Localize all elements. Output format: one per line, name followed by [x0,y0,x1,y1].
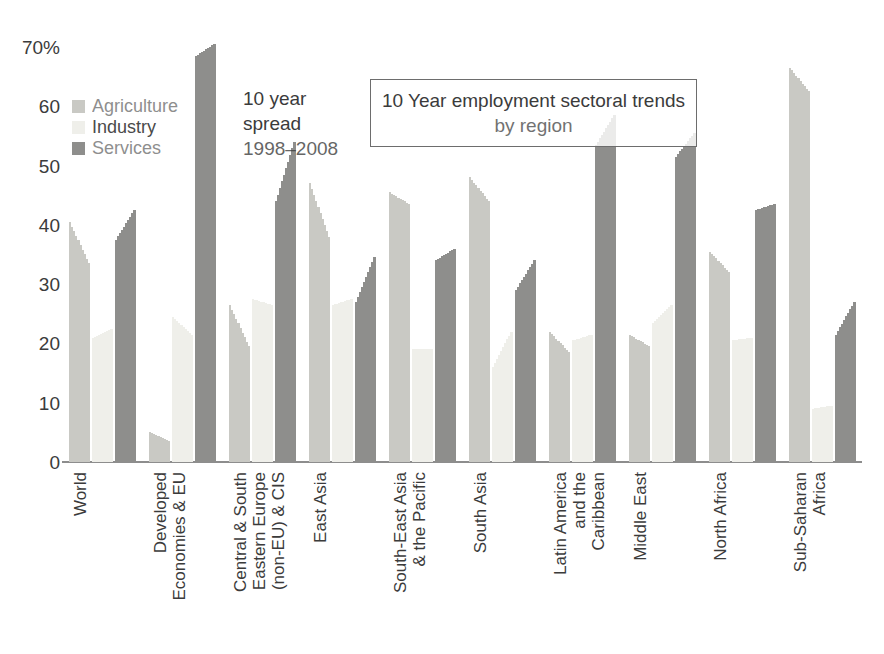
bar-foot [835,437,856,462]
legend-item-industry: Industry [72,117,178,138]
bar-services [755,204,776,462]
spread-annotation-line2: spread [243,111,338,136]
chart-title-box: 10 Year employment sectoral trends by re… [370,79,697,147]
bar-group [149,30,216,462]
bar-segment [773,204,776,462]
bar-segment [133,210,136,462]
x-axis-tick-label: Sub-Saharan [791,472,810,572]
bar-foot [92,437,113,462]
legend-swatch-industry [72,121,85,134]
bar-agriculture [229,305,250,462]
bar-foot [115,437,136,462]
legend-label-agriculture: Agriculture [92,96,178,117]
y-axis-tick-label: 20 [14,334,60,353]
bar-segment [213,44,216,462]
bar-industry [732,338,753,463]
spread-annotation-line1: 10 year [243,86,338,111]
bar-segment [327,237,330,462]
bar-services [355,257,376,462]
bar-foot [435,437,456,462]
bar-segment [613,115,616,462]
bar-industry [92,329,113,462]
bar-foot [789,437,810,462]
legend-label-services: Services [92,138,161,159]
bar-foot [229,437,250,462]
bar-segment [293,142,296,462]
bar-foot [355,437,376,462]
bar-segment [87,263,90,462]
bar-foot [675,437,696,462]
x-axis-tick-label: North Africa [711,472,730,561]
bar-foot [595,437,616,462]
x-axis-tick-label: South-East Asia [391,472,410,593]
legend-swatch-services [72,142,85,155]
x-axis-tick-label: Economies & EU [170,472,189,601]
bar-industry [412,349,433,462]
bar-services [275,142,296,462]
bar-services [595,115,616,462]
chart-canvas: 70%6050403020100 WorldDevelopedEconomies… [0,0,884,654]
x-axis-tick-label: Eastern Europe [250,472,269,590]
spread-annotation: 10 year spread 1998–2008 [243,86,338,161]
x-axis-tick-label: & the Pacific [410,472,429,567]
bar-agriculture [789,68,810,462]
bar-segment [487,201,490,462]
bar-industry [812,406,833,462]
x-axis-tick-label: Latin America [551,472,570,575]
bar-industry [172,317,193,462]
bar-agriculture [469,177,490,462]
bar-foot [412,437,433,462]
bar-foot [309,437,330,462]
bar-foot [332,437,353,462]
bar-foot [275,437,296,462]
bar-foot [252,437,273,462]
bar-foot [652,437,673,462]
bar-industry [652,305,673,462]
x-axis-tick-label: Central & South [231,472,250,592]
x-axis-tick-label: World [71,472,90,516]
x-axis-tick-label: (non-EU) & CIS [269,472,288,590]
bar-services [195,44,216,462]
bar-agriculture [629,335,650,462]
bar-foot [755,437,776,462]
chart-title-line2: by region [494,115,572,136]
bar-services [675,133,696,462]
bar-segment [807,91,810,462]
bar-foot [549,437,570,462]
x-axis-tick-label: Africa [810,472,829,515]
bar-services [515,260,536,462]
bar-foot [389,437,410,462]
bar-services [835,302,856,462]
legend: Agriculture Industry Services [72,96,178,159]
bar-foot [469,437,490,462]
bar-foot [515,437,536,462]
spread-annotation-line3: 1998–2008 [243,136,338,161]
x-axis-tick-label: and the [570,472,589,529]
legend-swatch-agriculture [72,100,85,113]
legend-label-industry: Industry [92,117,156,138]
bar-agriculture [549,332,570,462]
bar-foot [732,437,753,462]
bar-services [435,249,456,462]
bar-services [115,210,136,462]
bar-industry [572,335,593,462]
y-axis-tick-label: 70% [14,38,60,57]
chart-title-line1: 10 Year employment sectoral trends [382,90,685,111]
bar-foot [709,437,730,462]
bar-industry [252,299,273,462]
bar-segment [453,249,456,462]
legend-item-services: Services [72,138,178,159]
x-axis-tick-label: East Asia [311,472,330,543]
bar-segment [727,272,730,462]
bar-segment [533,260,536,462]
bar-agriculture [709,252,730,462]
bar-segment [693,133,696,462]
y-axis-tick-label: 30 [14,275,60,294]
bar-group [709,30,776,462]
x-axis-tick-label: Caribbean [589,472,608,550]
bar-group [69,30,136,462]
bar-group [789,30,856,462]
bar-industry [492,332,513,462]
y-axis-tick-label: 40 [14,215,60,234]
bar-foot [195,437,216,462]
